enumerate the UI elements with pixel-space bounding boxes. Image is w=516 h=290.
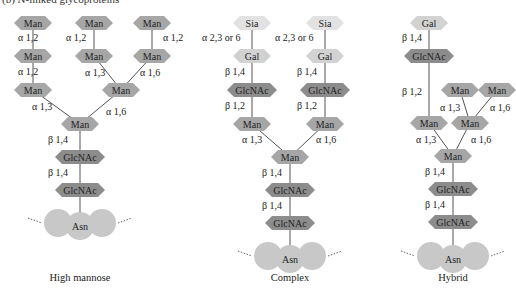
diagram-canvas: ManManManManManManManManManGlcNAcGlcNAcA… [0,0,516,290]
sugar-label: GlcNAc [63,152,97,163]
sugar-label: Gal [422,18,437,29]
linkage-label: β 1,4 [402,32,422,43]
linkage-label: α 1,6 [490,102,510,113]
linkage-label: β 1,4 [48,167,68,178]
linkage-label: β 1,2 [225,100,245,111]
sugar-label: Man [143,51,161,62]
linkage-label: β 1,4 [425,199,445,210]
linkage-label: α 1,2 [18,66,38,77]
linkage-label: α 1,2 [18,32,38,43]
linkage-label: α 1,2 [66,32,86,43]
sugar-label: Man [420,118,438,129]
sugar-label: GlcNAc [273,218,307,229]
sugar-label: Gal [318,51,333,62]
linkage-label: β 1,4 [297,66,317,77]
sugar-label: Man [451,85,469,96]
linkage-label: α 1,2 [163,32,183,43]
sugar-label: Man [243,119,261,130]
linkage-label: α 1,6 [106,106,126,117]
sugar-label: GlcNAc [436,184,470,195]
sugar-label: Sia [246,18,259,29]
linkage-label: α 1,6 [140,67,160,78]
peptide-chain-left [28,218,42,223]
sugar-label: Man [461,118,479,129]
linkage-label: α 1,6 [316,134,336,145]
sugar-label: Man [24,18,42,29]
peptide-chain-right [491,251,505,256]
peptide-chain-left [238,251,252,256]
linkage-label: β 1,4 [225,66,245,77]
sugar-label: GlcNAc [436,217,470,228]
sugar-label: GlcNAc [63,185,97,196]
linkage-label: α 2,3 or 6 [202,32,241,43]
linkage-label: β 1,4 [48,134,68,145]
sugar-label: Man [143,18,161,29]
sugar-label: Man [71,119,89,130]
sugar-label: GlcNAc [273,185,307,196]
sugar-label: Gal [245,51,260,62]
linkage-label: β 1,4 [425,166,445,177]
linkage-label: α 1,3 [85,67,105,78]
sugar-label: Man [281,152,299,163]
panel-caption: High mannose [50,272,111,283]
glycoprotein-diagram: (b) N-linked glycoproteins ManManManManM… [0,0,516,290]
linkage-label: α 1,3 [416,134,436,145]
panel-hybrid: GalGlcNAcManManManManManGlcNAcGlcNAcAsnβ… [401,16,516,283]
peptide-chain-left [401,251,415,256]
panel-caption: Complex [271,272,310,283]
linkage-label: α 2,3 or 6 [275,32,314,43]
linkage-label: α 1,3 [440,102,460,113]
sugar-label: Asn [445,254,461,265]
sugar-label: Man [488,85,506,96]
sugar-label: Man [316,119,334,130]
sugar-label: Man [444,151,462,162]
sugar-label: Asn [72,221,88,232]
panel-complex: SiaGalGlcNAcManSiaGalGlcNAcManManGlcNAcG… [202,16,350,283]
peptide-chain-right [118,218,132,223]
sugar-label: GlcNAc [235,85,269,96]
linkage-label: β 1,4 [262,167,282,178]
linkage-label: α 1,3 [32,101,52,112]
sugar-label: GlcNAc [308,85,342,96]
sugar-label: GlcNAc [412,51,446,62]
linkage-label: α 1,6 [471,134,491,145]
linkage-label: α 1,3 [242,134,262,145]
panel-high-mannose: ManManManManManManManManManGlcNAcGlcNAcA… [14,16,183,283]
linkage-label: β 1,4 [262,200,282,211]
sugar-label: Man [24,51,42,62]
linkage-label: β 1,2 [402,86,422,97]
sugar-label: Asn [282,254,298,265]
sugar-label: Man [112,85,130,96]
panel-caption: Hybrid [438,272,468,283]
sugar-label: Man [24,85,42,96]
sugar-label: Sia [319,18,332,29]
peptide-chain-right [328,251,342,256]
sugar-label: Man [85,51,103,62]
sugar-label: Man [85,18,103,29]
linkage-label: β 1,2 [297,100,317,111]
figure-header: (b) N-linked glycoproteins [2,0,119,5]
